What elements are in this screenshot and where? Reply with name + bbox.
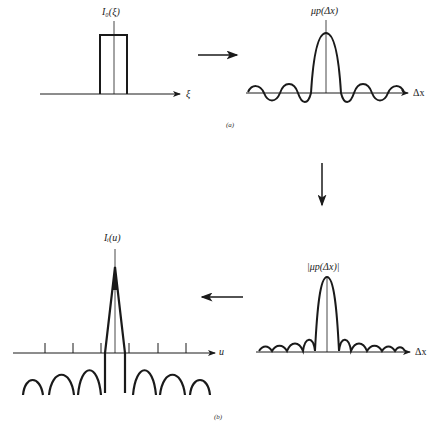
sinc-plot [246, 20, 408, 102]
intensity-y-label: Iᵢ(u) [104, 232, 121, 243]
sinc-y-label: μp(Δx) [311, 5, 338, 16]
intensity-plot [13, 249, 215, 395]
caption-b: (b) [214, 413, 222, 421]
abs-sinc-x-label: Δx [415, 346, 426, 357]
diagram-canvas [0, 0, 437, 429]
sinc-x-label: Δx [413, 87, 424, 98]
side-lobes [23, 370, 210, 395]
intensity-x-label: u [219, 346, 224, 357]
rect-function [100, 35, 127, 94]
rect-plot [40, 21, 180, 94]
abs-sinc-plot [256, 277, 410, 352]
rect-y-label: I₀(ξ) [102, 6, 120, 17]
caption-a: (a) [226, 121, 234, 129]
rect-x-label: ξ [186, 88, 190, 99]
abs-sinc-curve [259, 277, 405, 351]
u-ticks [45, 343, 186, 353]
abs-sinc-y-label: |μp(Δx)| [307, 261, 340, 272]
